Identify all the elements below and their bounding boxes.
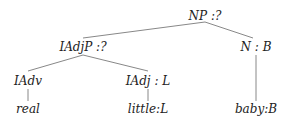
- edge-np-iadjp: [83, 22, 205, 38]
- leaf-real: real: [16, 103, 40, 115]
- edge-iadjp-iadj: [83, 55, 148, 71]
- node-iadjp: IAdjP :?: [59, 41, 106, 53]
- node-iadv: IAdv: [14, 75, 42, 87]
- leaf-little: little:L: [128, 103, 168, 115]
- node-np: NP :?: [189, 10, 222, 22]
- edge-iadjp-iadv: [28, 55, 83, 71]
- leaf-baby: baby:B: [235, 103, 277, 115]
- edge-np-n: [205, 22, 253, 38]
- node-iadj: IAdj : L: [126, 75, 170, 87]
- node-n: N : B: [241, 41, 272, 53]
